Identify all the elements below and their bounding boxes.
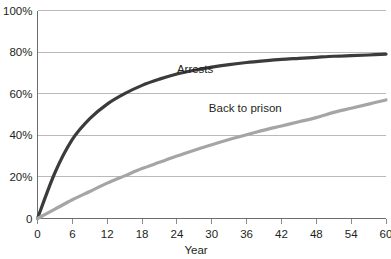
y-tick-label-40: 40%	[9, 129, 32, 141]
y-tick-label-80: 80%	[9, 46, 32, 58]
y-tick-label-0: 0	[26, 213, 32, 225]
x-tick-label-30: 30	[205, 228, 218, 240]
x-tick-label-54: 54	[345, 228, 358, 240]
x-tick-label-12: 12	[101, 228, 114, 240]
series-annotations: ArrestsBack to prison	[177, 63, 282, 115]
axis-lines	[38, 11, 387, 219]
axis-ticks	[38, 219, 387, 224]
gridlines	[38, 11, 387, 219]
y-tick-label-20: 20%	[9, 171, 32, 183]
x-tick-label-60: 60	[380, 228, 391, 240]
series-label-back-to-prison: Back to prison	[209, 102, 282, 114]
y-axis-tick-labels: 020%40%60%80%100%	[3, 5, 32, 225]
x-tick-label-42: 42	[275, 228, 288, 240]
x-tick-label-36: 36	[240, 228, 253, 240]
line-chart: 020%40%60%80%100% 06121824303642485460 A…	[0, 0, 391, 259]
x-tick-label-0: 0	[34, 228, 40, 240]
x-tick-label-6: 6	[69, 228, 75, 240]
x-tick-label-24: 24	[171, 228, 184, 240]
series-label-arrests: Arrests	[177, 63, 214, 75]
x-axis-tick-labels: 06121824303642485460	[34, 228, 391, 240]
y-tick-label-60: 60%	[9, 88, 32, 100]
chart-container: 020%40%60%80%100% 06121824303642485460 A…	[0, 0, 391, 259]
x-axis-title: Year	[184, 244, 207, 256]
series-line-arrests	[38, 54, 387, 218]
x-tick-label-48: 48	[310, 228, 323, 240]
x-tick-label-18: 18	[136, 228, 149, 240]
y-tick-label-100: 100%	[3, 5, 32, 17]
data-series	[38, 54, 387, 218]
